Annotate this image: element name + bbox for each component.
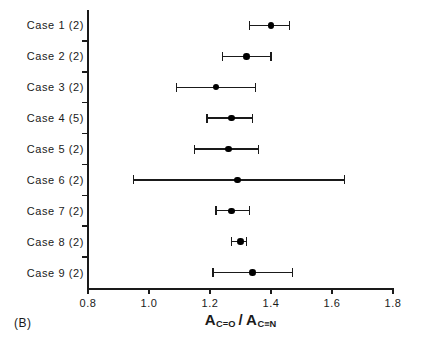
y-axis-tick: [82, 40, 89, 42]
category-labels-column: Case 1 (2)Case 2 (2)Case 3 (2)Case 4 (5)…: [0, 0, 84, 300]
x-axis-tick-label: 0.8: [80, 297, 97, 309]
error-bar-cap-high: [255, 83, 256, 92]
error-bar-cap-low: [194, 145, 195, 154]
x-axis-tick: [270, 288, 272, 294]
case-label: Case 9 (2): [6, 267, 84, 279]
y-axis-tick: [82, 71, 89, 73]
x-axis-tick: [148, 288, 150, 294]
y-axis-tick: [82, 133, 89, 135]
error-bar-cap-low: [215, 206, 216, 215]
error-bar-cap-low: [206, 114, 207, 123]
data-point-marker: [243, 53, 250, 60]
axis-title-denominator: AC≡N: [246, 311, 276, 328]
y-axis-tick: [82, 256, 89, 258]
case-label: Case 3 (2): [6, 81, 84, 93]
x-axis-tick-label: 1.6: [324, 297, 341, 309]
error-bar-cap-low: [212, 268, 213, 277]
x-axis-tick: [331, 288, 333, 294]
x-axis-tick-label: 1.8: [385, 297, 402, 309]
error-bar-cap-low: [176, 83, 177, 92]
data-point-marker: [268, 22, 275, 29]
panel-label: (B): [14, 316, 32, 330]
x-axis-title: AC=O/AC≡N: [88, 311, 393, 329]
plot-area: 0.81.01.21.41.61.8: [88, 10, 393, 288]
case-label: Case 8 (2): [6, 236, 84, 248]
error-bar-cap-high: [289, 21, 290, 30]
denominator-subscript: C≡N: [257, 319, 276, 329]
x-axis-tick-label: 1.4: [263, 297, 280, 309]
x-axis-line: [87, 288, 393, 290]
x-axis-tick-label: 1.2: [202, 297, 219, 309]
error-bar-cap-high: [246, 237, 247, 246]
y-axis-line: [87, 10, 89, 288]
case-label: Case 2 (2): [6, 50, 84, 62]
case-label: Case 7 (2): [6, 205, 84, 217]
data-point-marker: [225, 146, 232, 153]
error-bar-cap-low: [249, 21, 250, 30]
numerator-symbol: A: [205, 311, 216, 328]
error-bar-cap-high: [258, 145, 259, 154]
data-point-marker: [228, 115, 235, 122]
y-axis-tick: [82, 164, 89, 166]
data-point-marker: [237, 238, 244, 245]
numerator-subscript: C=O: [216, 319, 235, 329]
case-label: Case 6 (2): [6, 174, 84, 186]
y-axis-tick: [82, 225, 89, 227]
error-bar-cap-high: [270, 52, 271, 61]
error-bar-cap-high: [249, 206, 250, 215]
x-axis-tick-label: 1.0: [141, 297, 158, 309]
axis-title-numerator: AC=O: [205, 311, 236, 328]
axis-title-separator: /: [235, 311, 246, 328]
x-axis-tick: [87, 288, 89, 294]
data-point-marker: [234, 177, 241, 184]
x-axis-tick: [392, 288, 394, 294]
data-point-marker: [213, 84, 220, 91]
case-label: Case 4 (5): [6, 112, 84, 124]
error-bar-cap-high: [292, 268, 293, 277]
y-axis-tick: [82, 195, 89, 197]
error-bar-cap-high: [344, 175, 345, 184]
error-bar-cap-low: [231, 237, 232, 246]
forest-plot-figure: Case 1 (2)Case 2 (2)Case 3 (2)Case 4 (5)…: [0, 0, 426, 351]
data-point-marker: [249, 269, 256, 276]
denominator-symbol: A: [246, 311, 257, 328]
error-bar-cap-high: [252, 114, 253, 123]
case-label: Case 1 (2): [6, 19, 84, 31]
x-axis-tick: [209, 288, 211, 294]
error-bar-cap-low: [222, 52, 223, 61]
y-axis-tick: [82, 102, 89, 104]
case-label: Case 5 (2): [6, 143, 84, 155]
data-point-marker: [228, 208, 235, 215]
error-bar-cap-low: [133, 175, 134, 184]
